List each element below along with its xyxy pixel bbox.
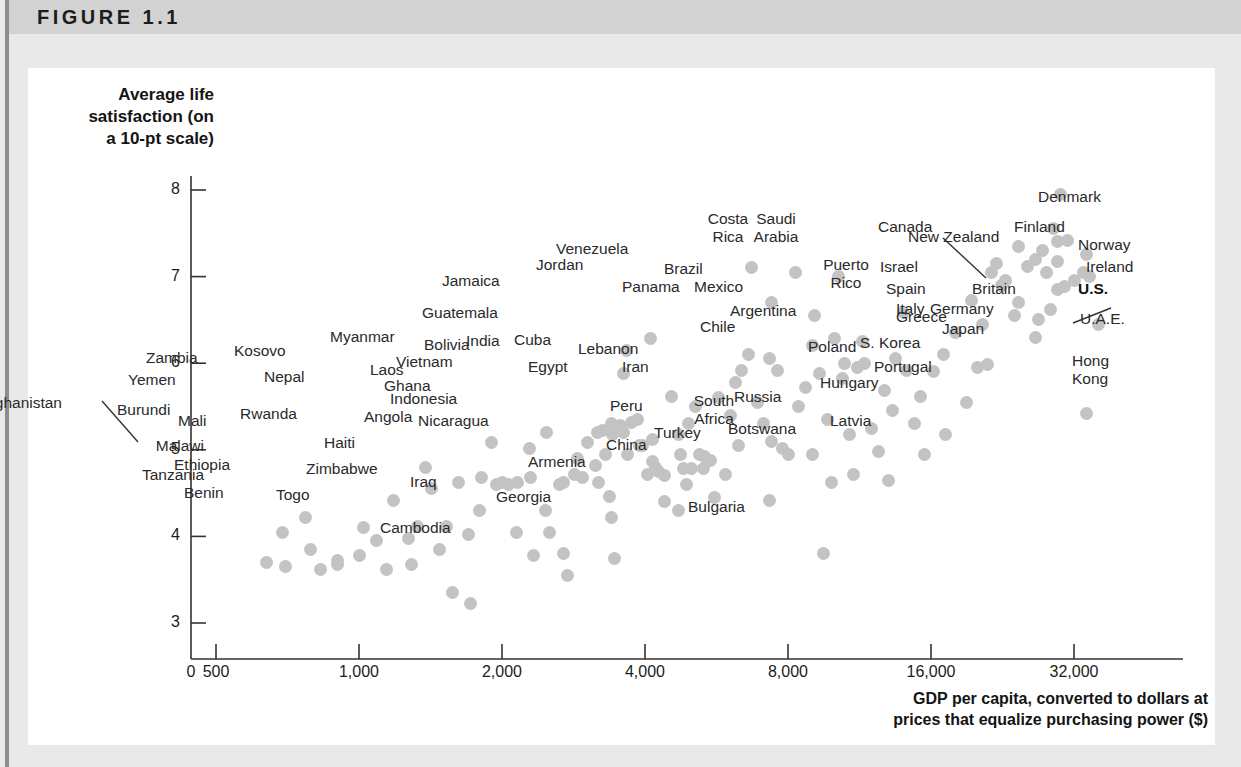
point-label-china: China	[606, 436, 647, 454]
data-point-unlabeled-50[interactable]	[704, 454, 717, 467]
data-point-unlabeled-3[interactable]	[331, 558, 344, 571]
data-point-burundi[interactable]	[299, 511, 312, 524]
data-point-unlabeled-55[interactable]	[735, 364, 748, 377]
data-point-unlabeled-31[interactable]	[603, 490, 616, 503]
point-label-finland: Finland	[1014, 218, 1065, 236]
data-point-haiti[interactable]	[510, 526, 523, 539]
data-point-bulgaria[interactable]	[817, 547, 830, 560]
data-point-unlabeled-45[interactable]	[680, 478, 693, 491]
data-point-hong-kong[interactable]	[1080, 407, 1093, 420]
data-point-unlabeled-88[interactable]	[1012, 296, 1025, 309]
data-point-unlabeled-85[interactable]	[981, 358, 994, 371]
x-tick-label-1000: 1,000	[324, 663, 394, 681]
data-point-portugal[interactable]	[939, 428, 952, 441]
data-point-nicaragua[interactable]	[658, 495, 671, 508]
data-point-unlabeled-60[interactable]	[771, 364, 784, 377]
data-point-zambia[interactable]	[419, 461, 432, 474]
data-point-unlabeled-56[interactable]	[742, 348, 755, 361]
data-point-unlabeled-21[interactable]	[543, 526, 556, 539]
data-point-unlabeled-19[interactable]	[524, 471, 537, 484]
point-label-yemen: Yemen	[128, 371, 176, 389]
data-point-south-africa[interactable]	[806, 448, 819, 461]
data-point-costa-rica[interactable]	[789, 266, 802, 279]
point-label-jamaica: Jamaica	[442, 272, 500, 290]
data-point-hungary[interactable]	[918, 448, 931, 461]
data-point-unlabeled-40[interactable]	[658, 469, 671, 482]
x-axis-title-line-0: GDP per capita, converted to dollars at	[788, 688, 1208, 709]
data-point-benin[interactable]	[446, 586, 459, 599]
point-label-myanmar: Myanmar	[330, 328, 395, 346]
data-point-unlabeled-74[interactable]	[872, 445, 885, 458]
data-point-unlabeled-92[interactable]	[1040, 266, 1053, 279]
data-point-unlabeled-0[interactable]	[260, 556, 273, 569]
data-point-s-korea[interactable]	[960, 396, 973, 409]
data-point-yemen[interactable]	[387, 494, 400, 507]
data-point-unlabeled-81[interactable]	[937, 348, 950, 361]
data-point-cambodia[interactable]	[561, 569, 574, 582]
point-label-afghanistan: Afghanistan	[0, 394, 62, 412]
data-point-unlabeled-11[interactable]	[452, 476, 465, 489]
data-point-unlabeled-2[interactable]	[314, 563, 327, 576]
data-point-unlabeled-91[interactable]	[1036, 244, 1049, 257]
data-point-unlabeled-75[interactable]	[878, 384, 891, 397]
data-point-turkey[interactable]	[763, 494, 776, 507]
data-point-unlabeled-78[interactable]	[908, 417, 921, 430]
data-point-unlabeled-10[interactable]	[433, 543, 446, 556]
data-point-venezuela[interactable]	[745, 261, 758, 274]
data-point-unlabeled-94[interactable]	[1051, 255, 1064, 268]
data-point-unlabeled-1[interactable]	[279, 560, 292, 573]
data-point-unlabeled-54[interactable]	[729, 376, 742, 389]
data-point-chile[interactable]	[838, 357, 851, 370]
data-point-angola[interactable]	[605, 511, 618, 524]
data-point-armenia[interactable]	[672, 504, 685, 517]
data-point-unlabeled-63[interactable]	[792, 400, 805, 413]
data-point-unlabeled-12[interactable]	[462, 528, 475, 541]
data-point-unlabeled-86[interactable]	[990, 257, 1003, 270]
data-point-poland[interactable]	[886, 404, 899, 417]
data-point-ghana[interactable]	[592, 476, 605, 489]
data-point-togo[interactable]	[464, 597, 477, 610]
data-point-unlabeled-27[interactable]	[581, 436, 594, 449]
data-point-myanmar[interactable]	[540, 426, 553, 439]
point-label-benin: Benin	[184, 484, 224, 502]
data-point-zimbabwe[interactable]	[527, 549, 540, 562]
data-point-botswana[interactable]	[825, 476, 838, 489]
point-label-georgia: Georgia	[496, 488, 551, 506]
data-point-unlabeled-64[interactable]	[799, 381, 812, 394]
data-point-unlabeled-79[interactable]	[914, 390, 927, 403]
data-point-kosovo[interactable]	[485, 436, 498, 449]
data-point-mexico[interactable]	[808, 309, 821, 322]
data-point-unlabeled-26[interactable]	[576, 471, 589, 484]
data-point-laos[interactable]	[589, 459, 602, 472]
data-point-iraq[interactable]	[557, 547, 570, 560]
data-point-unlabeled-43[interactable]	[674, 448, 687, 461]
data-point-iran[interactable]	[732, 439, 745, 452]
data-point-unlabeled-5[interactable]	[357, 521, 370, 534]
data-point-latvia[interactable]	[882, 474, 895, 487]
point-label-egypt: Egypt	[528, 358, 568, 376]
point-label-togo: Togo	[276, 486, 310, 504]
data-point-unlabeled-4[interactable]	[353, 549, 366, 562]
data-point-afghanistan[interactable]	[276, 526, 289, 539]
data-point-jordan[interactable]	[644, 332, 657, 345]
data-point-malawi[interactable]	[304, 543, 317, 556]
data-point-georgia[interactable]	[608, 552, 621, 565]
y-axis-title-line-0: Average life	[64, 84, 214, 106]
data-point-russia[interactable]	[847, 468, 860, 481]
point-label-ethiopia: Ethiopia	[174, 456, 230, 474]
data-point-japan[interactable]	[1029, 331, 1042, 344]
data-point-unlabeled-93[interactable]	[1044, 303, 1057, 316]
data-point-unlabeled-7[interactable]	[380, 563, 393, 576]
data-point-ethiopia[interactable]	[405, 558, 418, 571]
data-point-unlabeled-41[interactable]	[665, 390, 678, 403]
data-point-italy[interactable]	[1008, 309, 1021, 322]
data-point-unlabeled-14[interactable]	[475, 471, 488, 484]
data-point-unlabeled-13[interactable]	[473, 504, 486, 517]
data-point-new-zealand[interactable]	[1012, 240, 1025, 253]
data-point-unlabeled-52[interactable]	[719, 468, 732, 481]
data-point-germany[interactable]	[1032, 313, 1045, 326]
data-point-unlabeled-72[interactable]	[858, 357, 871, 370]
data-point-panama[interactable]	[763, 352, 776, 365]
data-point-unlabeled-62[interactable]	[782, 448, 795, 461]
data-point-unlabeled-46[interactable]	[685, 462, 698, 475]
